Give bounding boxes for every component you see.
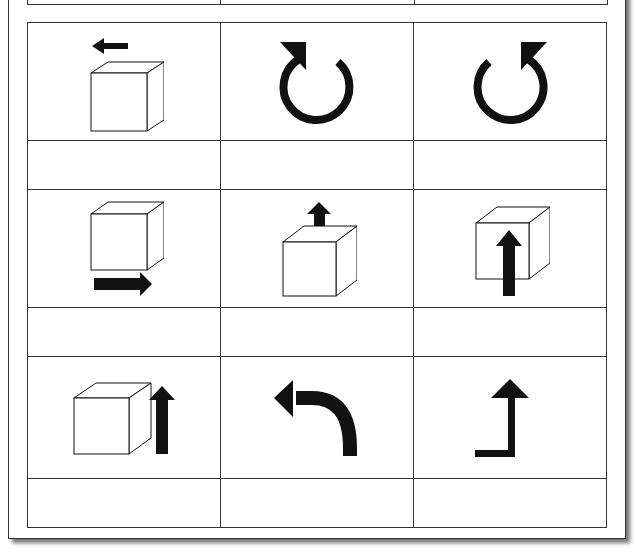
cube-with-up-arrow-beside-icon (69, 368, 179, 468)
picture-row-3 (28, 357, 607, 479)
answer-row-2 (28, 308, 607, 357)
answer-cell[interactable] (414, 308, 607, 357)
previous-row-bottom (27, 0, 608, 5)
answer-cell[interactable] (28, 141, 221, 190)
cube-with-up-arrow-on-top-icon (277, 196, 357, 301)
picture-cell (414, 23, 607, 141)
picture-cell (221, 23, 414, 141)
answer-cell[interactable] (221, 141, 414, 190)
picture-cell (221, 357, 414, 479)
picture-cell (221, 190, 414, 308)
turn-left-arrow-icon (272, 368, 362, 468)
rotate-clockwise-icon (272, 32, 362, 132)
answer-cell[interactable] (221, 479, 414, 528)
picture-row-2 (28, 190, 607, 308)
picture-cell (414, 190, 607, 308)
picture-cell (28, 357, 221, 479)
picture-cell (414, 357, 607, 479)
answer-cell[interactable] (414, 141, 607, 190)
answer-cell[interactable] (414, 479, 607, 528)
picture-cell (28, 23, 221, 141)
cube-with-up-arrow-through-front-icon (470, 196, 550, 301)
cube-with-right-arrow-below-icon (84, 196, 164, 301)
answer-cell[interactable] (221, 308, 414, 357)
cube-with-left-arrow-icon (84, 32, 164, 132)
answer-cell[interactable] (28, 479, 221, 528)
answer-row-3 (28, 479, 607, 528)
picture-cell (28, 190, 221, 308)
picture-row-1 (28, 23, 607, 141)
worksheet-grid (27, 22, 607, 528)
rotate-counterclockwise-icon (465, 32, 555, 132)
corner-up-arrow-icon (470, 368, 550, 468)
answer-row-1 (28, 141, 607, 190)
answer-cell[interactable] (28, 308, 221, 357)
